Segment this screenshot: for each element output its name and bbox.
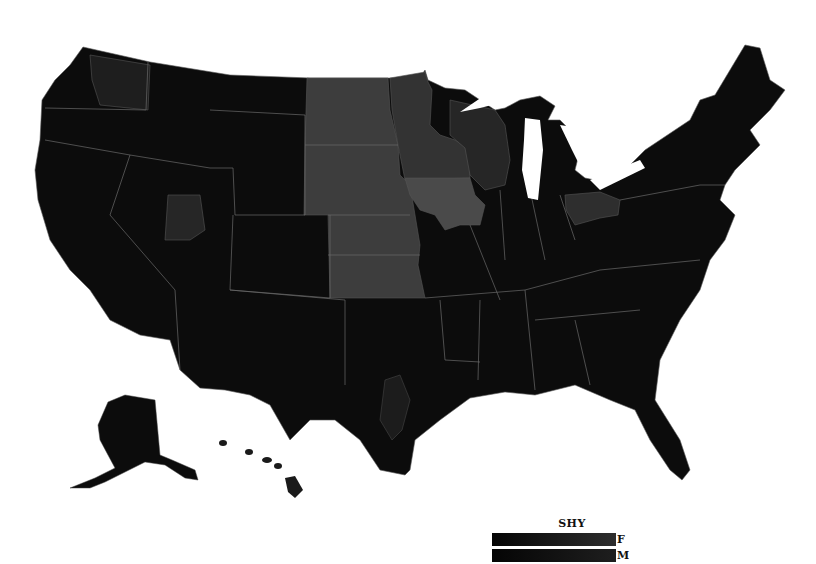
- alaska: [70, 395, 198, 488]
- legend-row-f: F: [492, 533, 632, 546]
- legend-row-m: M: [492, 549, 632, 562]
- legend-gradient-bar-m: [492, 549, 616, 562]
- hawaii: [219, 440, 303, 498]
- us-choropleth-map: [0, 0, 816, 564]
- legend-gradient-bar-f: [492, 533, 616, 546]
- region-washington-mid: [90, 55, 150, 110]
- legend-title: SHY: [532, 517, 612, 530]
- region-utah-mid: [165, 195, 205, 240]
- legend-label-f: F: [617, 533, 625, 546]
- legend-label-m: M: [617, 549, 629, 562]
